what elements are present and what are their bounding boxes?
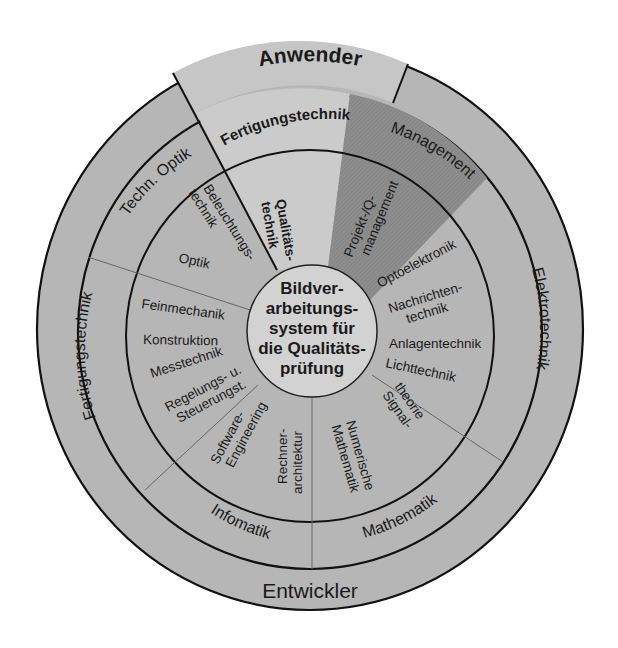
competence-wheel-diagram: Anwender Entwickler Fertigungstechnik Ma…: [0, 0, 618, 648]
svg-text:architektur: architektur: [290, 430, 305, 494]
svg-text:die Qualitäts-: die Qualitäts-: [258, 339, 366, 358]
label-konstruktion: Konstruktion: [143, 332, 218, 348]
svg-text:Rechner-: Rechner-: [275, 428, 290, 484]
svg-text:arbeitungs-: arbeitungs-: [266, 299, 359, 318]
label-entwickler: Entwickler: [262, 579, 358, 602]
svg-text:prüfung: prüfung: [280, 359, 344, 378]
label-anlagentechnik: Anlagentechnik: [389, 336, 482, 351]
svg-text:Bildver-: Bildver-: [280, 279, 343, 298]
svg-text:system für: system für: [269, 319, 355, 338]
label-rechnerarchitektur: Rechner- architektur: [275, 428, 305, 494]
